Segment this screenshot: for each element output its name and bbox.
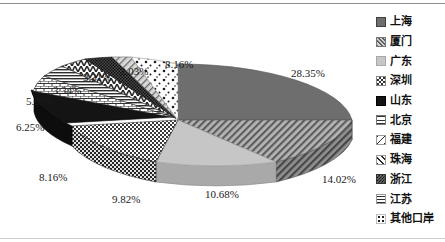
legend-label-jiangsu: 江苏 [390, 194, 412, 205]
swatch-diagonal-hatch-icon [376, 37, 386, 47]
legend-label-zhejiang: 浙江 [390, 174, 412, 185]
swatch-zigzag-icon [376, 155, 386, 165]
legend-item-jiangsu[interactable]: 江苏 [376, 189, 445, 209]
legend-item-shandong[interactable]: 山东 [376, 91, 445, 111]
figure-top-border [0, 3, 445, 4]
legend-label-other-ports: 其他口岸 [390, 213, 434, 224]
swatch-dense-checker-icon [376, 174, 386, 184]
legend-item-shanghai[interactable]: 上海 [376, 12, 445, 32]
figure-bottom-border [0, 238, 445, 239]
swatch-sparse-dots-icon [376, 214, 386, 224]
legend-label-shandong: 山东 [390, 95, 412, 106]
legend-item-fujian[interactable]: 福建 [376, 130, 445, 150]
value-label-shenzhen: 9.82% [112, 193, 140, 205]
legend-item-beijing[interactable]: 北京 [376, 110, 445, 130]
legend-label-shanghai: 上海 [390, 16, 412, 27]
swatch-checker-fine-icon [376, 76, 386, 86]
swatch-horizontal-lines-icon [376, 194, 386, 204]
value-label-fujian: 5.88% [26, 95, 54, 107]
value-label-zhejiang: 3.31% [83, 71, 111, 83]
legend-label-zhuhai: 珠海 [390, 154, 412, 165]
legend-item-zhuhai[interactable]: 珠海 [376, 150, 445, 170]
pie-plot-area: 28.35% 14.02% 10.68% 9.82% 8.16% 6.25% 5… [0, 6, 372, 218]
value-label-xiamen: 14.02% [322, 173, 356, 185]
value-label-zhuhai: 3.34% [53, 84, 81, 96]
slice-shanghai [178, 64, 352, 120]
chart-legend: 上海 厦门 广东 深圳 山东 北京 福建 珠海 [376, 12, 445, 230]
swatch-brick-icon [376, 115, 386, 125]
legend-label-fujian: 福建 [390, 134, 412, 145]
value-label-beijing: 6.25% [16, 121, 44, 133]
legend-item-zhejiang[interactable]: 浙江 [376, 170, 445, 190]
swatch-solid-black-icon [376, 96, 386, 106]
value-label-shanghai: 28.35% [291, 67, 325, 79]
legend-label-shenzhen: 深圳 [390, 75, 412, 86]
legend-item-xiamen[interactable]: 厦门 [376, 32, 445, 52]
legend-label-beijing: 北京 [390, 115, 412, 126]
pie-chart-figure: 28.35% 14.02% 10.68% 9.82% 8.16% 6.25% 5… [0, 0, 445, 242]
legend-label-guangdong: 广东 [390, 56, 412, 67]
value-label-guangdong: 10.68% [205, 188, 239, 200]
legend-item-shenzhen[interactable]: 深圳 [376, 71, 445, 91]
swatch-solid-light-gray-icon [376, 56, 386, 66]
swatch-solid-dark-gray-icon [376, 17, 386, 27]
pie-chart-svg [0, 6, 372, 218]
value-label-jiangsu: 2.03% [120, 65, 148, 77]
value-label-shandong: 8.16% [39, 171, 67, 183]
legend-label-xiamen: 厦门 [390, 36, 412, 47]
legend-item-guangdong[interactable]: 广东 [376, 51, 445, 71]
legend-item-other-ports[interactable]: 其他口岸 [376, 209, 445, 229]
swatch-sparse-diagonal-icon [376, 135, 386, 145]
value-label-other-ports: 8.16% [165, 58, 193, 70]
